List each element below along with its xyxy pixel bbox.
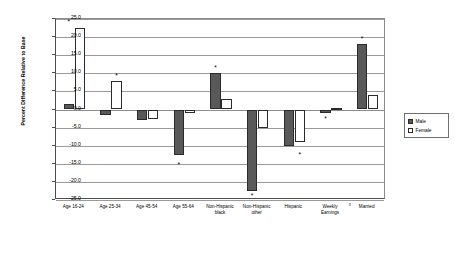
y-axis-tick-mark <box>52 145 55 146</box>
y-axis-tick-mark <box>52 18 55 19</box>
gridline <box>56 164 384 165</box>
y-axis-tick-mark <box>52 163 55 164</box>
legend-label-female: Female <box>416 128 432 133</box>
y-axis-tick-mark <box>52 127 55 128</box>
bar-female <box>221 99 232 110</box>
significance-marker: * <box>296 152 304 159</box>
significance-marker: * <box>321 116 329 123</box>
legend-label-male: Male <box>416 119 426 124</box>
bar-female <box>111 81 122 110</box>
significance-marker: * <box>175 162 183 169</box>
y-axis-tick-mark <box>52 181 55 182</box>
y-axis-tick-mark <box>52 36 55 37</box>
bar-female <box>185 110 196 114</box>
legend-item-male: Male <box>408 117 448 126</box>
bar-male <box>284 110 295 146</box>
bar-female <box>295 110 306 143</box>
legend-swatch-male-icon <box>408 119 413 124</box>
y-axis-tick-mark <box>52 54 55 55</box>
bar-female <box>331 108 342 110</box>
y-axis-title: Percent Difference Relative to Base <box>20 18 46 144</box>
bar-male <box>210 73 221 109</box>
gridline <box>56 146 384 147</box>
bar-male <box>174 110 185 155</box>
bar-male <box>320 110 331 114</box>
x-axis-label-superscript: 3 <box>349 204 351 208</box>
bar-male <box>357 44 368 109</box>
gridline <box>56 37 384 38</box>
gridline <box>56 19 384 20</box>
legend-swatch-female-icon <box>408 128 413 133</box>
bar-chart: Percent Difference Relative to Base ****… <box>0 0 455 253</box>
chart-legend: Male Female <box>404 113 449 138</box>
significance-marker: * <box>358 36 366 43</box>
bar-female <box>148 110 159 119</box>
bar-male <box>137 110 148 121</box>
y-axis-tick-mark <box>52 109 55 110</box>
bar-female <box>258 110 269 128</box>
bar-male <box>100 110 111 115</box>
significance-marker: * <box>211 65 219 72</box>
gridline <box>56 55 384 56</box>
gridline <box>56 128 384 129</box>
gridline <box>56 200 384 201</box>
y-axis-tick-mark <box>52 199 55 200</box>
y-axis-tick-mark <box>52 90 55 91</box>
significance-marker: * <box>248 193 256 200</box>
bar-male <box>247 110 258 191</box>
plot-area: ******** <box>55 18 385 199</box>
legend-item-female: Female <box>408 126 448 135</box>
gridline <box>56 182 384 183</box>
bar-female <box>368 95 379 109</box>
y-axis-tick-mark <box>52 72 55 73</box>
significance-marker: * <box>113 73 121 80</box>
